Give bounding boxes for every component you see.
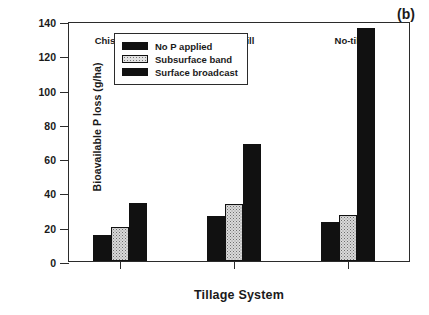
- y-tick: 100: [60, 92, 69, 93]
- y-tick: 140: [60, 23, 69, 24]
- legend-item: Subsurface band: [122, 53, 238, 65]
- y-tick: 0: [60, 263, 69, 264]
- y-tick-label: 140: [38, 17, 56, 29]
- legend-swatch: [122, 68, 148, 76]
- panel-label: (b): [397, 6, 415, 22]
- legend-label: Surface broadcast: [155, 67, 238, 78]
- y-tick-label: 120: [38, 51, 56, 63]
- y-tick: 80: [60, 126, 69, 127]
- bar: [225, 204, 243, 261]
- chart-figure: Bioavailable P loss (g/ha) 0204060801001…: [0, 0, 429, 315]
- y-tick: 40: [60, 194, 69, 195]
- legend-label: No P applied: [155, 41, 212, 52]
- y-tick: 120: [60, 57, 69, 58]
- bar: [321, 222, 339, 261]
- bar: [129, 203, 147, 261]
- legend: No P appliedSubsurface bandSurface broad…: [114, 33, 248, 85]
- legend-item: Surface broadcast: [122, 66, 238, 78]
- legend-swatch: [122, 42, 148, 50]
- y-tick-label: 20: [44, 223, 56, 235]
- bar: [93, 235, 111, 261]
- x-tick: [348, 261, 349, 269]
- x-tick: [234, 261, 235, 269]
- bar: [357, 28, 375, 261]
- bar: [111, 227, 129, 261]
- bar: [339, 215, 357, 261]
- y-tick-label: 80: [44, 120, 56, 132]
- y-tick-label: 0: [50, 257, 56, 269]
- bar: [207, 216, 225, 261]
- legend-swatch: [122, 55, 148, 63]
- y-tick-label: 40: [44, 188, 56, 200]
- y-tick: 20: [60, 229, 69, 230]
- plot-area: Bioavailable P loss (g/ha) 0204060801001…: [68, 22, 410, 262]
- x-axis-title: Tillage System: [68, 288, 410, 302]
- legend-item: No P applied: [122, 40, 238, 52]
- y-tick: 60: [60, 160, 69, 161]
- y-tick-label: 100: [38, 86, 56, 98]
- x-tick: [120, 261, 121, 269]
- bar: [243, 144, 261, 261]
- legend-label: Subsurface band: [155, 54, 232, 65]
- y-tick-label: 60: [44, 154, 56, 166]
